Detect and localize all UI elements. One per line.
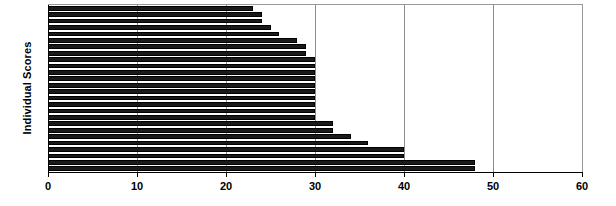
x-tick-label-60: 60 [576,180,588,192]
bar [48,44,306,49]
plot-area [48,4,583,172]
bar-chart: Individual Scores 0102030405060 [0,0,616,206]
bar [48,166,475,171]
bar [48,12,262,17]
bar [48,51,306,56]
x-tick-label-30: 30 [309,180,321,192]
bar [48,19,262,24]
x-tick-60 [582,172,583,177]
bar [48,64,315,69]
x-tick-10 [137,172,138,177]
y-axis-title: Individual Scores [16,0,38,176]
bar [48,70,315,75]
bar [48,6,253,11]
x-tick-40 [404,172,405,177]
bar [48,115,315,120]
x-tick-label-20: 20 [220,180,232,192]
bar [48,147,404,152]
bar [48,134,351,139]
x-tick-label-0: 0 [45,180,51,192]
x-tick-20 [226,172,227,177]
bar [48,25,271,30]
bar [48,57,315,62]
x-tick-0 [48,172,49,177]
bar [48,32,279,37]
bars-layer [48,5,582,172]
x-tick-label-10: 10 [131,180,143,192]
x-axis-tick-labels: 0102030405060 [48,180,583,196]
x-axis-ticks [48,172,583,178]
bar [48,102,315,107]
bar [48,83,315,88]
bar [48,89,315,94]
bar [48,141,368,146]
x-tick-30 [315,172,316,177]
bar [48,160,475,165]
bar-row [48,166,582,172]
bar [48,109,315,114]
bar [48,128,333,133]
bar [48,96,315,101]
bar [48,76,315,81]
x-tick-label-50: 50 [487,180,499,192]
x-tick-50 [493,172,494,177]
bar [48,121,333,126]
bar [48,154,404,159]
bar [48,38,297,43]
y-axis-title-label: Individual Scores [21,42,33,135]
x-tick-label-40: 40 [398,180,410,192]
